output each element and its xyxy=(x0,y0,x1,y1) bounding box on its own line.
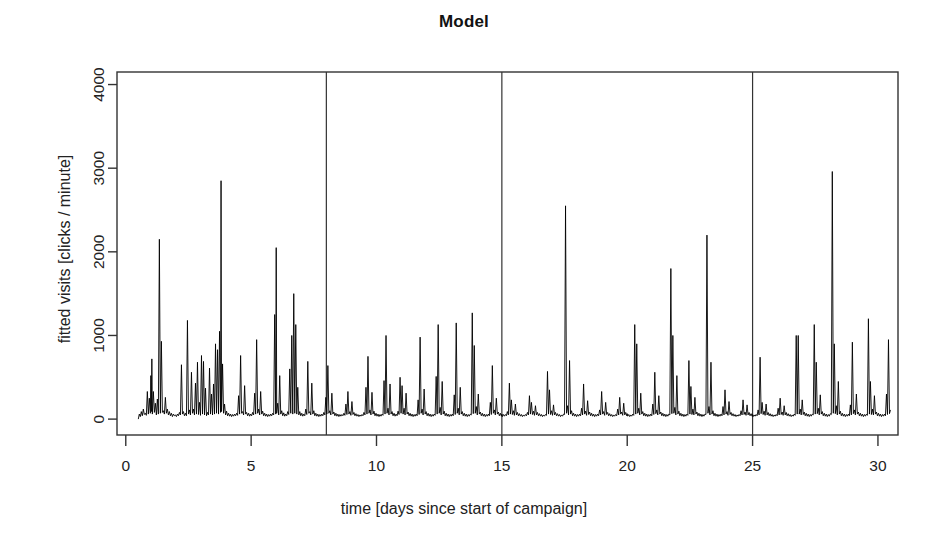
y-tick-label: 0 xyxy=(91,414,108,423)
x-axis-ticks: 051015202530 xyxy=(121,435,886,474)
series-line xyxy=(138,172,890,420)
x-tick-label: 20 xyxy=(619,457,637,474)
x-tick-label: 5 xyxy=(247,457,256,474)
x-tick-label: 10 xyxy=(368,457,386,474)
data-series xyxy=(138,172,890,420)
x-tick-label: 25 xyxy=(744,457,761,474)
plot-svg: 01000200030004000 051015202530 xyxy=(0,0,928,553)
x-tick-label: 15 xyxy=(493,457,510,474)
figure-container: Model fitted visits [clicks / minute] ti… xyxy=(0,0,928,553)
y-tick-label: 1000 xyxy=(91,318,108,353)
y-axis-ticks: 01000200030004000 xyxy=(91,67,118,423)
y-tick-label: 2000 xyxy=(91,234,108,269)
y-tick-label: 4000 xyxy=(91,67,108,102)
x-tick-label: 0 xyxy=(121,457,130,474)
x-tick-label: 30 xyxy=(869,457,887,474)
plot-frame xyxy=(117,72,898,435)
y-tick-label: 3000 xyxy=(91,151,108,186)
